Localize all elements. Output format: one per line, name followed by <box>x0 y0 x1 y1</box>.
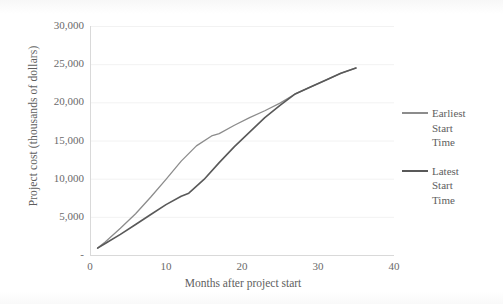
legend-item[interactable]: EarliestStartTime <box>402 106 503 150</box>
legend-item[interactable]: LatestStartTime <box>402 164 503 208</box>
legend-label-line: Latest <box>432 164 503 179</box>
x-axis-tick-label: 30 <box>298 261 338 272</box>
x-axis-tick-label: 0 <box>70 261 110 272</box>
x-axis-tick-label: 20 <box>222 261 262 272</box>
x-axis-tick-label: 40 <box>374 261 414 272</box>
legend-label-line: Earliest <box>432 106 503 121</box>
legend-label-line: Time <box>432 135 503 150</box>
x-axis-title: Months after project start <box>91 277 395 289</box>
legend-color-swatch <box>402 170 428 172</box>
chart-legend: EarliestStartTimeLatestStartTime <box>402 106 503 221</box>
legend-item-label: EarliestStartTime <box>432 106 503 150</box>
legend-item-label: LatestStartTime <box>432 164 503 208</box>
legend-color-swatch <box>402 112 428 114</box>
legend-label-line: Start <box>432 178 503 193</box>
line-chart: Project cost (thousands of dollars) -5,0… <box>0 0 503 304</box>
legend-label-line: Time <box>432 193 503 208</box>
legend-label-line: Start <box>432 121 503 136</box>
x-axis-tick-label: 10 <box>146 261 186 272</box>
